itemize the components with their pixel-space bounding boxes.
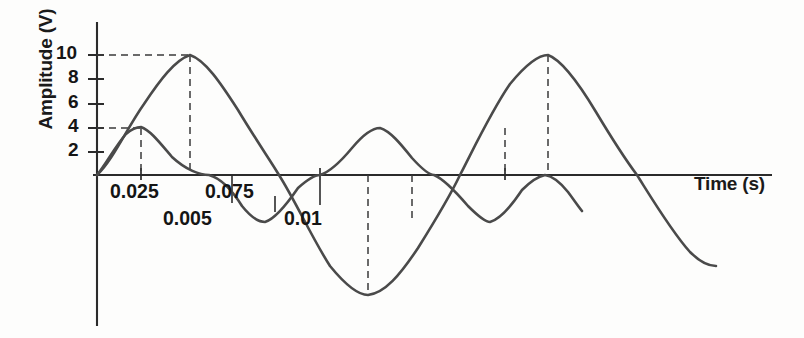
x-tick-label-0025: 0.025: [110, 180, 159, 203]
x-axis-title: Time (s): [694, 173, 765, 195]
y-tick-label-4: 4: [68, 115, 79, 137]
x-tick-label-0075: 0.075: [205, 180, 254, 203]
x-tick-label-001: 0.01: [284, 207, 322, 230]
chart-canvas: [0, 0, 804, 338]
y-tick-label-6: 6: [68, 91, 79, 113]
y-tick-label-8: 8: [68, 66, 79, 88]
chart-figure: Amplitude (V) Time (s) 10 8 6 4 2 0.025 …: [0, 0, 804, 338]
x-tick-label-0005: 0.005: [163, 207, 212, 230]
y-axis-title: Amplitude (V): [35, 0, 57, 149]
y-tick-label-10: 10: [56, 42, 77, 64]
y-tick-label-2: 2: [68, 139, 79, 161]
